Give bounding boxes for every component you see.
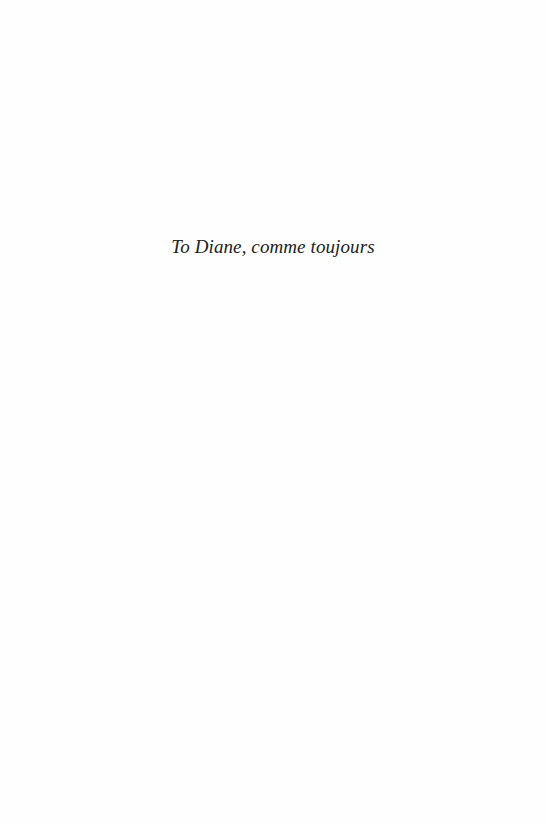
book-page: To Diane, comme toujours (0, 0, 546, 825)
dedication-text: To Diane, comme toujours (0, 236, 546, 258)
